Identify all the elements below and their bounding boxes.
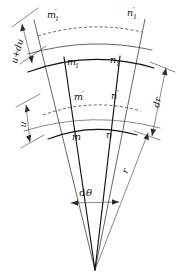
dim-arrow-r-top [144,133,149,140]
label-m1-sub: 1 [75,62,79,70]
label-n1-prime-mark: ′ [133,5,135,14]
label-r: r [120,166,131,174]
ext-line-u-du-upper [12,8,38,27]
label-m1-prime-mark: ′ [55,7,57,16]
dim-arrow-dr-bottom [151,129,157,136]
arc-outer-band-lower-thin [28,44,152,54]
label-n1-prime: n 1 ′ [127,5,137,21]
label-u-plus-du: u+du [9,38,25,65]
label-n1-sub: 1 [116,60,120,68]
arc-displaced-outer-dashed [38,27,142,36]
dim-arrow-u-top [25,105,30,113]
label-n: n [106,129,112,140]
label-n-prime-mark: ′ [117,88,119,97]
label-n1-prime-sub: 1 [133,13,137,21]
label-n1: n 1 [110,54,120,68]
annular-sector-diagram: m 1 ′ n 1 ′ m 1 n 1 m ′ n ′ m [0,0,189,279]
label-m-prime: m ′ [74,89,84,102]
label-m1-prime: m 1 ′ [47,7,59,23]
ext-line-dr-upper [150,62,175,72]
dim-arrow-dr-top [162,68,168,75]
dim-arrow-dtheta-left [71,200,78,205]
label-u: u [18,121,29,129]
dim-arrow-dtheta-right [112,199,119,204]
dim-arrow-u-du-top [20,24,25,31]
label-d-theta-theta: θ [86,187,92,198]
label-dr: dr [151,96,163,109]
label-d-theta-d: d [79,187,86,198]
ext-line-u-lower [21,135,44,148]
label-m-prime-mark: ′ [82,89,84,98]
label-m: m [72,131,81,142]
label-m1: m 1 [67,56,79,70]
dim-arrow-u-bottom [26,135,31,143]
ext-line-u-upper [16,94,40,107]
label-n-prime: n ′ [111,88,119,101]
figure-container: m 1 ′ n 1 ′ m 1 n 1 m ′ n ′ m [0,0,189,279]
label-m1-prime-sub: 1 [55,15,59,23]
label-d-theta: d θ [79,187,92,198]
ext-line-u-du-lower [20,46,46,64]
dim-arrow-u-du-bottom [28,56,33,63]
